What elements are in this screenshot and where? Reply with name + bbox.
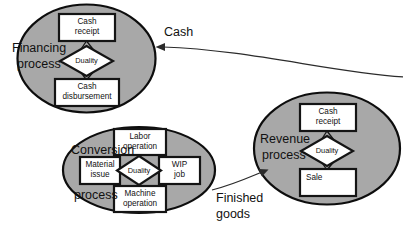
revenue-entity-cash-receipt-box [300,104,356,131]
finished-goods-arrow-path [212,172,262,190]
cash-flow-arrow-head [156,43,166,51]
conversion-entity-wip-job-box [159,157,200,184]
financing-entity-cash-receipt-box [59,14,115,41]
conversion-entity-material-issue-box [80,157,120,184]
revenue-entity-sale-box [300,169,356,196]
conversion-entity-machine-operation-box [114,186,166,212]
diagram-canvas: Financing process Cash receipt Cash disb… [0,0,403,235]
conversion-entity-labor-operation-box [114,129,166,155]
financing-entity-cash-disbursement-box [55,79,119,106]
diagram-vector-layer [0,0,403,235]
cash-flow-arrow-path [163,47,403,77]
